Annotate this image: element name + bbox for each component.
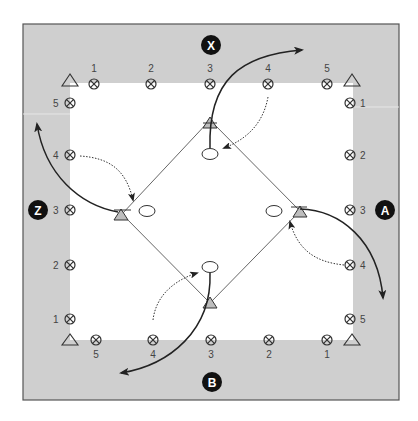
player-number: 3 [53,205,59,216]
svg-text:X: X [207,39,215,53]
team-badge-left: Z [28,200,48,220]
oval-base-icon [139,206,155,217]
team-badge-top: X [201,35,221,55]
oval-base-icon [202,149,218,160]
player-number: 1 [324,349,330,360]
player-number: 5 [360,314,366,325]
player-number: 4 [265,63,271,74]
player-number: 3 [207,63,213,74]
player-number: 5 [324,63,330,74]
player-number: 2 [266,349,272,360]
player-number: 2 [360,150,366,161]
oval-base-icon [202,262,218,273]
player-number: 4 [150,349,156,360]
svg-text:B: B [208,376,217,390]
player-number: 2 [148,63,154,74]
svg-text:Z: Z [34,204,41,218]
player-number: 4 [360,260,366,271]
team-badge-bottom: B [202,372,222,392]
svg-text:A: A [381,204,390,218]
player-number: 3 [360,205,366,216]
player-number: 1 [53,314,59,325]
player-number: 5 [53,98,59,109]
oval-base-icon [266,206,282,217]
drill-diagram: 1 2 3 4 5 1 2 3 4 5 5 4 3 2 1 5 [0,0,418,421]
player-number: 1 [91,63,97,74]
team-badge-right: A [375,200,395,220]
player-number: 3 [208,349,214,360]
player-number: 4 [53,150,59,161]
player-number: 5 [93,349,99,360]
player-number: 2 [53,260,59,271]
player-number: 1 [360,98,366,109]
